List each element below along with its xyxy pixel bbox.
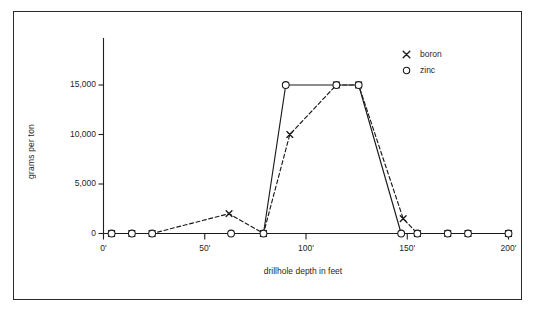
data-point-marker [128,230,135,237]
x-axis-title: drillhole depth in feet [203,266,403,276]
x-tick-label: 100' [286,244,326,253]
chart-legend: boron zinc [398,46,508,78]
x-tick-label: 50' [185,244,225,253]
legend-label-zinc: zinc [414,65,435,75]
data-point-marker [333,82,340,89]
data-point-marker [465,230,472,237]
legend-label-boron: boron [414,49,442,59]
y-axis-title: grams per ton [24,103,38,199]
legend-item-zinc: zinc [398,62,508,78]
y-tick-label: 5,000 [44,179,96,188]
data-point-marker [282,82,289,89]
x-tick-label: 150' [387,244,427,253]
x-tick-label: 200' [489,244,529,253]
chart-figure: grams per ton drillhole depth in feet 05… [0,0,535,312]
data-point-marker [398,230,405,237]
series-line-zinc [112,85,509,234]
data-series [108,82,512,237]
data-point-marker [444,230,451,237]
data-point-marker [355,82,362,89]
y-tick-label: 10,000 [44,130,96,139]
data-point-marker [149,230,156,237]
x-tick-label: 0' [84,244,124,253]
series-zinc [108,82,512,237]
data-point-marker [226,211,232,217]
data-point-marker [228,230,235,237]
data-point-marker [108,230,115,237]
data-point-marker [400,216,406,222]
circle-marker-icon [398,66,414,75]
x-marker-icon [398,50,414,59]
y-tick-label: 15,000 [44,80,96,89]
data-point-marker [505,230,512,237]
data-point-marker [260,230,267,237]
series-boron [109,82,512,236]
series-line-boron [112,85,509,234]
legend-item-boron: boron [398,46,508,62]
data-point-marker [414,230,421,237]
y-tick-label: 0 [44,229,96,238]
